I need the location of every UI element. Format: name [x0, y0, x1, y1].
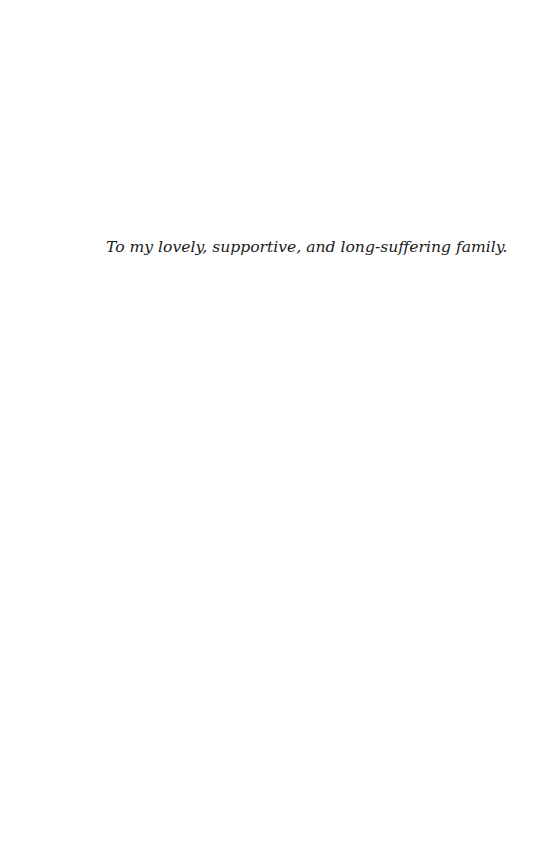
dedication-text: To my lovely, supportive, and long-suffe…: [106, 236, 507, 258]
book-page: To my lovely, supportive, and long-suffe…: [0, 0, 534, 862]
